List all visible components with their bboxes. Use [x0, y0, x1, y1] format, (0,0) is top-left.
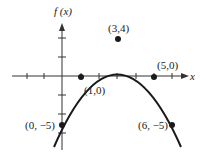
- function-graph: f (x) x (3,4) (1,0) (5,0) (0, −5) (6, −5…: [0, 0, 207, 155]
- x-axis-arrow-icon: [181, 73, 189, 79]
- y-axis-arrow-icon: [59, 23, 65, 31]
- y-axis-label: f (x): [54, 6, 72, 17]
- label-root2: (5,0): [157, 60, 178, 71]
- point-3-4: [115, 36, 121, 42]
- x-axis-label: x: [190, 71, 195, 82]
- label-vertex: (3,4): [108, 23, 129, 34]
- point-0-neg5: [59, 122, 65, 128]
- point-1-0: [78, 74, 84, 80]
- point-5-0: [151, 74, 157, 80]
- label-y0: (0, −5): [25, 120, 55, 131]
- parabola-curve: [54, 75, 181, 148]
- plot-area: [0, 0, 207, 155]
- label-root1: (1,0): [84, 85, 105, 96]
- label-y6: (6, −5): [138, 120, 168, 131]
- point-6-neg5: [169, 122, 175, 128]
